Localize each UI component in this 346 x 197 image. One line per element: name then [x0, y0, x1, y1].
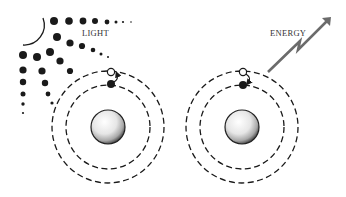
- ground-electron: [107, 80, 115, 88]
- electron-drop-down-arrow-icon: [246, 74, 250, 83]
- light-ray-dots-col2: [33, 53, 54, 105]
- light-label: LIGHT: [82, 28, 109, 38]
- electron-jump-up-arrow-icon: [114, 74, 118, 82]
- ground-electron-position: [239, 81, 247, 89]
- light-ray-dots-col1: [19, 51, 27, 114]
- energy-label: ENERGY: [270, 28, 306, 38]
- excited-electron: [239, 68, 246, 75]
- light-source-icon: [19, 17, 132, 114]
- nucleus: [91, 110, 125, 144]
- light-ray-dots-row3: [46, 48, 73, 74]
- atom-absorbing: [52, 68, 164, 183]
- atom-emitting: [186, 68, 298, 183]
- sun-arc-icon: [23, 18, 44, 45]
- atom-energy-diagram: LIGHT ENERGY: [0, 0, 346, 197]
- light-ray-dots-row1: [50, 17, 132, 25]
- nucleus: [225, 110, 259, 144]
- energy-lightning-arrow-icon: [268, 17, 331, 72]
- excited-electron-position: [107, 68, 114, 75]
